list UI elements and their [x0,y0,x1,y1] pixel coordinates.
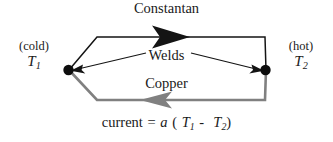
label-constantan: Constantan [0,1,333,16]
hot-temperature-symbol: T2 [274,54,328,72]
terminal-label-hot: (hot) T2 [274,40,328,72]
hot-state-label: (hot) [274,40,328,53]
cold-temperature-symbol: T1 [6,54,62,72]
thermocouple-diagram: Constantan Welds Copper (cold) T1 (hot) … [0,0,333,142]
equation-current: current=a(T1-T2) [0,115,333,132]
weld-dot-hot [260,65,270,75]
equation-operator: - [199,114,204,130]
hot-symbol-base: T [294,53,302,69]
hot-symbol-subscript: 2 [303,60,308,71]
terminal-label-cold: (cold) T1 [6,40,62,72]
equation-coefficient: a [160,114,167,130]
cold-symbol-subscript: 1 [36,60,41,71]
cold-state-label: (cold) [6,40,62,53]
cold-symbol-base: T [27,53,35,69]
equation-term1-symbol: T [182,114,190,130]
equation-lhs: current [102,114,143,130]
equation-close-paren: ) [226,114,231,130]
equation-equals: = [147,114,155,130]
label-copper: Copper [0,76,333,91]
equation-term1-subscript: 1 [190,121,195,132]
weld-dot-cold [63,65,73,75]
equation-open-paren: ( [172,114,177,130]
